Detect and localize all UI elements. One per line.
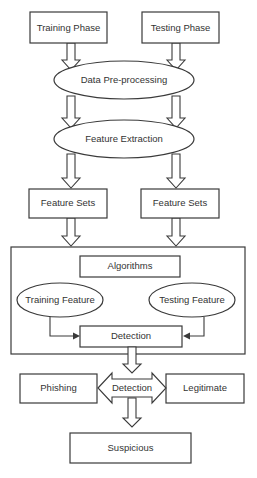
node-feature-sets-left: Feature Sets xyxy=(29,189,107,218)
arrow-featuresets-to-algorithms-left xyxy=(62,218,80,246)
detection-inner-label: Detection xyxy=(111,330,151,341)
testing-phase-label: Testing Phase xyxy=(151,22,211,33)
node-feature-sets-right: Feature Sets xyxy=(141,189,219,218)
node-testing-phase: Testing Phase xyxy=(142,12,219,43)
connector-training-feature-to-detection xyxy=(50,317,75,336)
suspicious-label: Suspicious xyxy=(108,442,154,453)
phishing-detection-flowchart: Training Phase Testing Phase Data Pre-pr… xyxy=(0,0,257,478)
testing-feature-label: Testing Feature xyxy=(159,294,224,305)
node-algorithms: Algorithms xyxy=(80,256,180,277)
node-feature-extraction: Feature Extraction xyxy=(54,120,194,158)
arrowhead-right-icon xyxy=(183,333,190,340)
connector-testing-feature-to-detection xyxy=(188,317,204,336)
node-phishing: Phishing xyxy=(20,374,97,403)
arrow-hub-to-suspicious xyxy=(123,398,141,427)
feature-sets-right-label: Feature Sets xyxy=(153,197,208,208)
feature-sets-left-label: Feature Sets xyxy=(41,197,96,208)
data-preprocessing-label: Data Pre-processing xyxy=(81,74,168,85)
training-phase-label: Training Phase xyxy=(37,22,101,33)
phishing-label: Phishing xyxy=(40,382,76,393)
node-data-preprocessing: Data Pre-processing xyxy=(54,61,194,99)
training-feature-label: Training Feature xyxy=(25,294,94,305)
algorithms-label: Algorithms xyxy=(108,260,153,271)
arrow-extraction-to-featuresets-right xyxy=(167,154,185,188)
legitimate-label: Legitimate xyxy=(183,382,227,393)
arrow-featuresets-to-algorithms-right xyxy=(167,218,185,246)
feature-extraction-label: Feature Extraction xyxy=(85,133,163,144)
node-detection-inner: Detection xyxy=(80,326,182,347)
arrow-preprocessing-to-extraction-right xyxy=(167,96,185,128)
arrow-preprocessing-to-extraction-left xyxy=(62,96,80,128)
node-training-feature: Training Feature xyxy=(17,283,103,317)
arrow-detection-to-hub xyxy=(123,347,141,373)
node-suspicious: Suspicious xyxy=(70,433,191,463)
node-testing-feature: Testing Feature xyxy=(149,283,235,317)
detection-hub-label: Detection xyxy=(112,382,152,393)
arrow-extraction-to-featuresets-left xyxy=(62,154,80,188)
node-training-phase: Training Phase xyxy=(30,12,107,43)
node-legitimate: Legitimate xyxy=(166,374,244,403)
arrowhead-left-icon xyxy=(73,333,80,340)
